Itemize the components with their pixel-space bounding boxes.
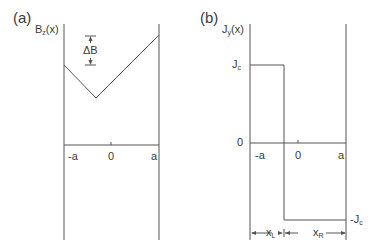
b-tick-a: a	[338, 150, 344, 161]
xl-dimension-label: xL	[266, 227, 275, 239]
neg-jc-level-label: -Jc	[350, 214, 363, 226]
panel-b-label: (b)	[200, 10, 218, 25]
a-tick-a: a	[151, 151, 157, 162]
b-tick-zero: 0	[295, 150, 301, 161]
b-tick-neg-a: -a	[255, 150, 265, 161]
panel-b-ylabel: Jy(x)	[222, 24, 244, 36]
panel-a-ylabel: Bz(x)	[35, 24, 59, 36]
panel-a-label: (a)	[13, 10, 31, 25]
delta-b-annotation: ΔB	[83, 45, 98, 56]
a-field-profile	[64, 35, 159, 98]
xr-dimension-label: xR	[313, 227, 324, 239]
a-tick-zero: 0	[108, 151, 114, 162]
zero-level-label: 0	[237, 137, 243, 148]
a-tick-neg-a: -a	[68, 151, 78, 162]
jc-level-label: Jc	[232, 59, 241, 71]
diagram-canvas	[0, 0, 372, 252]
